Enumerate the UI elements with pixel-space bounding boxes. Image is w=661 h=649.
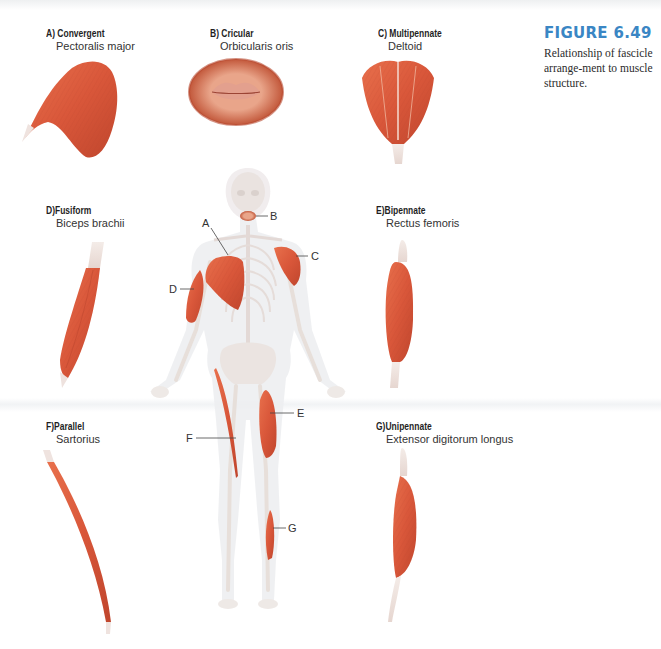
multipennate-muscle-illustration — [362, 61, 434, 164]
bipennate-muscle-illustration — [386, 240, 413, 388]
callout-a: A — [202, 218, 209, 229]
parallel-muscle-illustration — [43, 450, 111, 634]
callout-g: G — [288, 523, 297, 534]
body-figure — [150, 168, 346, 609]
callout-f: F — [186, 433, 193, 444]
unipennate-muscle-illustration — [388, 448, 416, 622]
callout-b: B — [270, 211, 277, 222]
callout-c: C — [311, 251, 319, 262]
callout-e: E — [297, 408, 304, 419]
anatomy-artwork — [0, 0, 661, 649]
fusiform-muscle-illustration — [60, 242, 104, 388]
circular-muscle-illustration — [189, 59, 283, 125]
convergent-muscle-illustration — [22, 62, 117, 158]
callout-d: D — [169, 284, 177, 295]
